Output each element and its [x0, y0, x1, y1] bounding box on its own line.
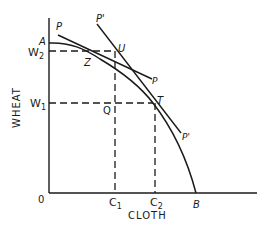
p-prime-top-label: P': [96, 13, 105, 24]
c1-sub: 1: [117, 202, 122, 211]
point-a-label: A: [38, 36, 46, 47]
point-u-label: U: [118, 43, 126, 54]
c1-tick-label: C1: [109, 196, 122, 211]
p-bottom-label: P: [152, 76, 158, 86]
p-prime-bottom-label: P': [182, 132, 190, 142]
w1-tick-label: W1: [30, 97, 46, 112]
origin-label: 0: [38, 194, 44, 205]
ppc-diagram: A B P P P' P' Z U T Q W2 W1 0 C1 C2 CLOT…: [0, 0, 265, 229]
point-t-label: T: [157, 95, 164, 106]
p-top-label: P: [56, 21, 63, 32]
w2-sub: 2: [39, 52, 44, 61]
w1-sub: 1: [41, 103, 46, 112]
point-z-label: Z: [83, 57, 92, 68]
point-b-label: B: [193, 199, 200, 210]
c2-tick-label: C2: [150, 196, 163, 211]
price-line-p: [58, 35, 152, 79]
price-line-p-prime: [97, 24, 181, 133]
x-axis-title: CLOTH: [128, 210, 167, 221]
point-q-label: Q: [103, 105, 111, 116]
w2-base: W: [28, 46, 39, 59]
w2-tick-label: W2: [28, 46, 44, 61]
y-axis-title: WHEAT: [11, 87, 22, 128]
w1-base: W: [30, 97, 41, 110]
